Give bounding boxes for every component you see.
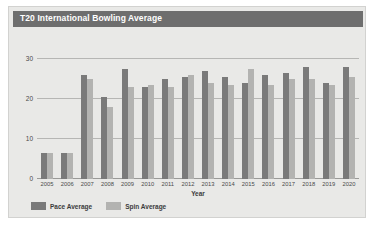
x-axis-tick-label-2005: 2005 [37, 181, 57, 187]
bar-spin-2013 [208, 83, 214, 179]
bar-group-2014 [218, 51, 238, 179]
bar-spin-2016 [268, 85, 274, 179]
bar-spin-2017 [289, 79, 295, 179]
bar-group-2013 [198, 51, 218, 179]
bar-group-2019 [319, 51, 339, 179]
bar-group-2010 [138, 51, 158, 179]
bar-spin-2012 [188, 75, 194, 179]
x-axis-tick-label-2012: 2012 [178, 181, 198, 187]
bar-group-2012 [178, 51, 198, 179]
bar-spin-2020 [349, 77, 355, 179]
chart-legend: Pace AverageSpin Average [31, 202, 166, 210]
bar-spin-2005 [47, 153, 53, 179]
y-axis-tick-label: 10 [26, 135, 33, 142]
x-axis-tick-label-2006: 2006 [57, 181, 77, 187]
legend-label: Pace Average [50, 203, 92, 210]
page-title: T20 International Bowling Average [20, 13, 162, 23]
bar-spin-2010 [148, 85, 154, 179]
bar-group-2007 [77, 51, 97, 179]
bar-spin-2015 [248, 69, 254, 179]
legend-item-spin[interactable]: Spin Average [106, 202, 166, 210]
x-axis-tick-label-2013: 2013 [198, 181, 218, 187]
x-axis-tick-label-2016: 2016 [258, 181, 278, 187]
bar-group-2011 [158, 51, 178, 179]
bar-spin-2014 [228, 85, 234, 179]
bar-spin-2007 [87, 79, 93, 179]
legend-label: Spin Average [125, 203, 166, 210]
bar-group-2017 [279, 51, 299, 179]
bar-spin-2009 [128, 87, 134, 179]
x-axis-tick-labels: 2005200620072008200920102011201220132014… [37, 181, 359, 187]
y-axis-tick-label: 30 [26, 55, 33, 62]
bar-group-2015 [238, 51, 258, 179]
plot-area: 0102030 [37, 51, 359, 179]
x-axis-tick-label-2015: 2015 [238, 181, 258, 187]
y-axis-tick-label: 20 [26, 95, 33, 102]
bar-group-2005 [37, 51, 57, 179]
bar-spin-2019 [329, 85, 335, 179]
bar-spin-2011 [168, 87, 174, 179]
x-axis-title: Year [37, 190, 359, 197]
x-axis-tick-label-2018: 2018 [299, 181, 319, 187]
bar-spin-2008 [107, 107, 113, 179]
bar-group-2016 [258, 51, 278, 179]
x-axis-tick-label-2014: 2014 [218, 181, 238, 187]
x-axis-tick-label-2009: 2009 [118, 181, 138, 187]
x-axis-tick-label-2008: 2008 [97, 181, 117, 187]
x-axis-tick-label-2007: 2007 [77, 181, 97, 187]
bar-group-2009 [118, 51, 138, 179]
bar-spin-2018 [309, 79, 315, 179]
x-axis-tick-label-2020: 2020 [339, 181, 359, 187]
bar-group-2006 [57, 51, 77, 179]
legend-swatch-spin [106, 202, 121, 210]
bar-spin-2006 [67, 153, 73, 179]
y-axis-tick-label: 0 [29, 175, 33, 182]
x-axis-tick-label-2019: 2019 [319, 181, 339, 187]
x-axis-tick-label-2017: 2017 [279, 181, 299, 187]
bars-layer [37, 51, 359, 179]
x-axis-tick-label-2010: 2010 [138, 181, 158, 187]
chart-title-bar: T20 International Bowling Average [13, 11, 363, 27]
bar-group-2018 [299, 51, 319, 179]
bar-group-2020 [339, 51, 359, 179]
legend-item-pace[interactable]: Pace Average [31, 202, 92, 210]
bar-group-2008 [97, 51, 117, 179]
chart-card: T20 International Bowling Average 010203… [8, 6, 366, 218]
legend-swatch-pace [31, 202, 46, 210]
x-axis-tick-label-2011: 2011 [158, 181, 178, 187]
